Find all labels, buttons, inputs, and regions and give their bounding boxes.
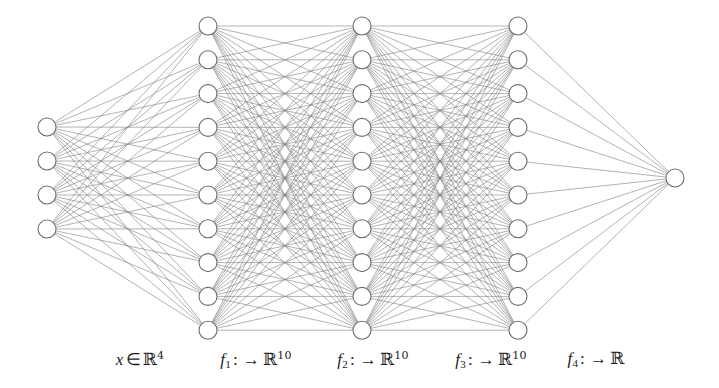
f2-label-codomain: ℝ10 — [380, 349, 409, 369]
f2-label-symbol: f2 — [337, 350, 348, 369]
f1-label-operator: : — [231, 350, 240, 369]
f4-label: f4:→ℝ — [567, 350, 624, 369]
neuron-hidden2-6 — [353, 186, 371, 204]
edge — [518, 127, 675, 178]
edge — [47, 26, 208, 161]
edge — [518, 178, 675, 330]
edge — [518, 60, 675, 178]
f1-label-symbol: f1 — [220, 350, 231, 369]
neuron-hidden3-10 — [509, 321, 527, 339]
neuron-hidden2-10 — [353, 321, 371, 339]
layer-labels: x∈ℝ4f1:→ℝ10f2:→ℝ10f3:→ℝ10f4:→ℝ — [0, 338, 719, 382]
f3-label-operator: : — [466, 350, 475, 369]
neuron-hidden2-2 — [353, 51, 371, 69]
neuron-hidden3-6 — [509, 186, 527, 204]
edge — [518, 178, 675, 263]
neuron-hidden1-6 — [199, 186, 217, 204]
nodes-group — [38, 17, 684, 339]
neuron-hidden3-4 — [509, 118, 527, 136]
f4-label-codomain: ℝ — [610, 348, 624, 368]
edge — [47, 229, 208, 263]
neuron-hidden1-4 — [199, 118, 217, 136]
layer-hidden-layer-2 — [353, 17, 371, 339]
network-graph — [0, 0, 719, 388]
edge-bundle-hidden3-to-output — [518, 26, 675, 330]
f2-label-arrow-icon: → — [357, 350, 380, 369]
neural-network-figure: x∈ℝ4f1:→ℝ10f2:→ℝ10f3:→ℝ10f4:→ℝ — [0, 0, 719, 388]
neuron-output-1 — [666, 169, 684, 187]
neuron-hidden1-5 — [199, 152, 217, 170]
edge — [518, 178, 675, 296]
neuron-hidden3-2 — [509, 51, 527, 69]
edge — [518, 178, 675, 229]
neuron-hidden2-4 — [353, 118, 371, 136]
neuron-hidden1-7 — [199, 220, 217, 238]
neuron-hidden3-8 — [509, 254, 527, 272]
neuron-hidden1-10 — [199, 321, 217, 339]
edge — [518, 161, 675, 178]
neuron-hidden1-1 — [199, 17, 217, 35]
neuron-hidden1-3 — [199, 85, 217, 103]
neuron-hidden3-3 — [509, 85, 527, 103]
edge-bundle-hidden1-to-hidden2 — [208, 26, 362, 330]
edge — [47, 60, 208, 229]
f1-label-arrow-icon: → — [240, 350, 263, 369]
edge — [518, 94, 675, 178]
edge — [47, 26, 208, 127]
edge-bundle-hidden2-to-hidden3 — [362, 26, 518, 330]
input-label-symbol: x — [116, 350, 124, 369]
neuron-hidden3-9 — [509, 287, 527, 305]
edge — [518, 178, 675, 195]
neuron-hidden2-8 — [353, 254, 371, 272]
edge — [47, 229, 208, 330]
input-label-operator: ∈ — [124, 350, 143, 369]
neuron-hidden2-3 — [353, 85, 371, 103]
input-label-codomain: ℝ4 — [143, 349, 165, 369]
neuron-hidden3-7 — [509, 220, 527, 238]
neuron-hidden3-1 — [509, 17, 527, 35]
f3-label-symbol: f3 — [455, 350, 466, 369]
neuron-hidden2-1 — [353, 17, 371, 35]
layer-hidden-layer-3 — [509, 17, 527, 339]
neuron-hidden3-5 — [509, 152, 527, 170]
f3-label-arrow-icon: → — [475, 350, 498, 369]
f4-label-arrow-icon: → — [587, 349, 610, 368]
f4-label-symbol: f4 — [567, 349, 578, 368]
neuron-input-4 — [38, 220, 56, 238]
layer-input-layer — [38, 118, 56, 238]
f2-label: f2:→ℝ10 — [337, 350, 409, 370]
neuron-hidden2-5 — [353, 152, 371, 170]
neuron-input-1 — [38, 118, 56, 136]
f2-label-operator: : — [348, 350, 357, 369]
f3-label-codomain: ℝ10 — [498, 349, 527, 369]
layer-hidden-layer-1 — [199, 17, 217, 339]
f1-label-codomain: ℝ10 — [263, 349, 292, 369]
input-label: x∈ℝ4 — [116, 350, 164, 368]
neuron-input-3 — [38, 186, 56, 204]
edge — [47, 229, 208, 296]
edge — [518, 26, 675, 178]
f3-label: f3:→ℝ10 — [455, 350, 527, 370]
edge — [47, 26, 208, 195]
neuron-hidden1-2 — [199, 51, 217, 69]
neuron-hidden2-7 — [353, 220, 371, 238]
neuron-input-2 — [38, 152, 56, 170]
edges-group — [47, 26, 675, 330]
edge-bundle-input-to-hidden1 — [47, 26, 208, 330]
neuron-hidden1-9 — [199, 287, 217, 305]
neuron-hidden1-8 — [199, 254, 217, 272]
f1-label: f1:→ℝ10 — [220, 350, 292, 370]
layer-output-layer — [666, 169, 684, 187]
f4-label-operator: : — [578, 349, 587, 368]
neuron-hidden2-9 — [353, 287, 371, 305]
